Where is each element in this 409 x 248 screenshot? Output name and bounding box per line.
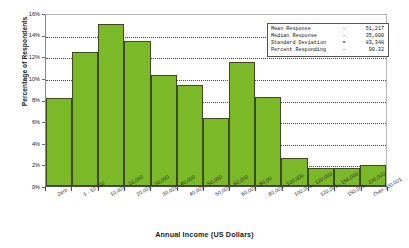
x-axis-tick: [361, 187, 362, 191]
y-axis-tick-label: 0%: [14, 184, 40, 190]
bar: [72, 52, 98, 186]
statistic-value: 51,217: [347, 26, 385, 33]
statistic-row: Mean Response-51,217: [271, 26, 385, 33]
y-axis-tick: [42, 57, 45, 58]
bar: [124, 41, 150, 186]
y-axis-tick-label: 10%: [14, 76, 40, 82]
y-axis-tick: [42, 122, 45, 123]
x-axis-tick: [282, 187, 283, 191]
x-axis-tick: [124, 187, 125, 191]
y-axis-tick: [42, 101, 45, 102]
y-axis-tick: [42, 14, 45, 15]
statistic-row: Median Response-35,000: [271, 33, 385, 40]
income-histogram-chart: Percentage of Respondents 16%14%12%10%8%…: [0, 0, 409, 248]
y-axis-tick-label: 8%: [14, 97, 40, 103]
x-axis-tick: [71, 187, 72, 191]
x-axis-tick: [150, 187, 151, 191]
y-axis-tick-label: 4%: [14, 141, 40, 147]
x-axis-tick: [308, 187, 309, 191]
x-axis-title: Annual Income (US Dollars): [0, 230, 409, 239]
x-axis-tick: [98, 187, 99, 191]
bar: [177, 85, 203, 186]
y-axis-tick: [42, 165, 45, 166]
x-axis-tick: [229, 187, 230, 191]
statistic-value: 90.32: [347, 47, 385, 54]
y-axis-tick-label: 16%: [14, 11, 40, 17]
x-axis-tick: [255, 187, 256, 191]
statistic-value: 83,348: [347, 40, 385, 47]
x-axis-tick-label: Zero: [56, 187, 68, 198]
x-axis-tick: [45, 187, 46, 191]
y-axis-tick: [42, 79, 45, 80]
x-axis-tick: [387, 187, 388, 191]
x-axis-tick: [177, 187, 178, 191]
statistic-label: Median Response: [271, 33, 341, 40]
x-axis-tick: [203, 187, 204, 191]
y-axis-tick-label: 12%: [14, 54, 40, 60]
bar: [229, 62, 255, 186]
statistics-box: Mean Response-51,217Median Response-35,0…: [267, 23, 389, 57]
y-axis-tick-label: 6%: [14, 119, 40, 125]
statistic-label: Standard Deviation: [271, 40, 341, 47]
y-axis-tick-label: 14%: [14, 32, 40, 38]
y-axis-tick: [42, 144, 45, 145]
y-axis-tick-label: 2%: [14, 162, 40, 168]
statistic-value: 35,000: [347, 33, 385, 40]
bar: [151, 75, 177, 186]
bar: [255, 97, 281, 186]
bar: [98, 24, 124, 186]
x-axis-tick: [334, 187, 335, 191]
y-axis-tick: [42, 36, 45, 37]
statistic-label: Percent Responding: [271, 47, 341, 54]
statistic-row: Standard Deviation=83,348: [271, 40, 385, 47]
statistic-row: Percent Responding-90.32: [271, 47, 385, 54]
bar: [46, 98, 72, 186]
statistic-label: Mean Response: [271, 26, 341, 33]
